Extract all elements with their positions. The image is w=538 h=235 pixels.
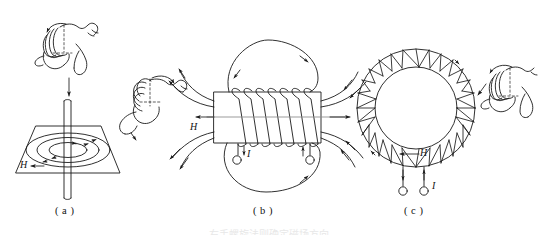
wire-a — [64, 100, 71, 200]
current-arrows-c — [403, 170, 424, 180]
solenoid-windings — [232, 88, 318, 155]
figure-canvas: H ( a ) H I ( b ) H I ( c ) 右手螺旋法则确定磁场方向 — [0, 0, 538, 235]
current-label-b: I — [247, 148, 250, 159]
toroid-direction-arrows — [371, 60, 459, 155]
figure-drawing — [0, 0, 538, 235]
panel-label-a: ( a ) — [55, 205, 74, 216]
field-label-c: H — [420, 147, 427, 158]
field-label-a: H — [20, 159, 27, 170]
panel-label-c: ( c ) — [404, 205, 423, 216]
panel-label-b: ( b ) — [253, 205, 273, 216]
field-label-b: H — [190, 121, 197, 132]
hand-a — [35, 23, 98, 74]
current-label-c: I — [432, 180, 435, 191]
hand-c — [481, 65, 537, 117]
current-arrows-b — [244, 146, 303, 156]
thumb-arrow-c — [478, 84, 486, 95]
field-loop-top-b — [228, 40, 318, 92]
hand-b — [120, 76, 187, 140]
field-lines-a — [26, 133, 110, 167]
field-loop-bottom-b — [224, 143, 320, 192]
figure-caption: 右手螺旋法则确定磁场方向 — [0, 226, 538, 235]
solenoid-terminals — [233, 156, 314, 164]
field-lines-outer-b — [169, 69, 366, 169]
